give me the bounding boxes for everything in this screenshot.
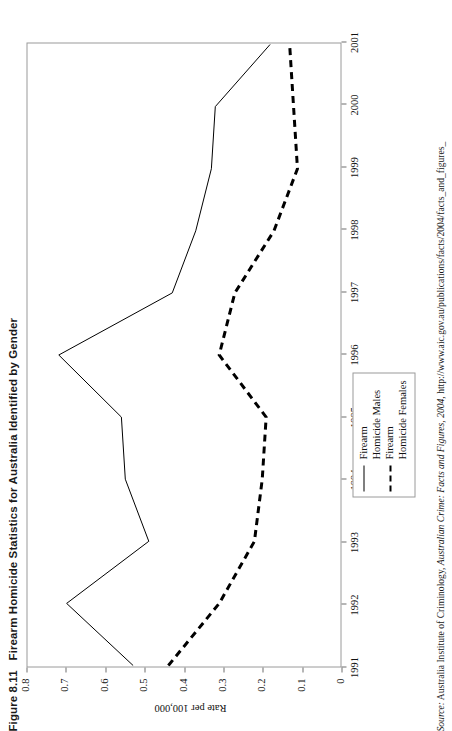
y-tick-label: 0.6	[98, 678, 109, 708]
legend-label-females-line1: Firearm	[383, 426, 396, 459]
chart-svg	[27, 43, 340, 666]
source-body: Australia Institute of Criminology,	[434, 565, 445, 700]
source-italic-title: Australian Crime: Facts and Figures, 200…	[434, 398, 445, 564]
x-tick-mark	[341, 166, 346, 167]
y-tick-mark	[302, 667, 303, 672]
x-tick-label: 1992	[348, 585, 359, 625]
x-tick-mark	[341, 229, 346, 230]
legend-entry-males-line1: Firearm	[357, 380, 370, 491]
y-tick-label: 0.7	[58, 678, 69, 708]
legend-entry-males-line2: Homicide Males	[370, 380, 383, 491]
series-line-males	[58, 44, 269, 665]
legend-label-males-line2: Homicide Males	[370, 389, 383, 459]
x-tick-label: 2000	[348, 85, 359, 125]
figure-source-note: Source: Australia Institute of Criminolo…	[434, 0, 445, 731]
legend-entry-females-line2: Homicide Females	[396, 380, 409, 491]
y-tick-label: 0.5	[137, 678, 148, 708]
legend-key-spacer-b	[402, 465, 403, 491]
x-tick-label: 1998	[348, 210, 359, 250]
legend-key-spacer-a	[376, 465, 377, 491]
legend-key-solid-line	[363, 465, 364, 491]
legend-label-males-line1: Firearm	[357, 426, 370, 459]
x-tick-label: 1996	[348, 335, 359, 375]
chart-plot-area	[26, 42, 341, 667]
x-tick-label: 1999	[348, 147, 359, 187]
figure-title-text: Firearm Homicide Statistics for Australi…	[6, 317, 18, 660]
series-line-females	[168, 44, 297, 665]
y-tick-mark	[262, 667, 263, 672]
y-tick-mark	[105, 667, 106, 672]
figure-rotated-container: Figure 8.11 Firearm Homicide Statistics …	[0, 0, 452, 731]
y-tick-mark	[184, 667, 185, 672]
y-tick-mark	[341, 667, 342, 672]
y-tick-label: 0	[334, 678, 345, 708]
x-tick-label: 1997	[348, 272, 359, 312]
y-tick-label: 0.8	[19, 678, 30, 708]
x-tick-label: 2001	[348, 22, 359, 62]
y-tick-mark	[223, 667, 224, 672]
y-tick-mark	[26, 667, 27, 672]
x-tick-mark	[341, 291, 346, 292]
legend-entry-females-line1: Firearm	[383, 380, 396, 491]
x-tick-label: 1993	[348, 522, 359, 562]
source-tail: , http://www.aic.gov.au/publications/fac…	[434, 141, 445, 398]
y-axis-label: Rate per 100,000	[153, 702, 225, 713]
figure-number: Figure 8.11	[6, 670, 18, 731]
y-tick-mark	[144, 667, 145, 672]
legend-key-dashed-line	[389, 465, 391, 491]
chart-legend: Firearm Homicide Males Firearm Homicide …	[352, 372, 415, 497]
y-tick-mark	[65, 667, 66, 672]
x-tick-mark	[341, 104, 346, 105]
x-tick-mark	[341, 666, 346, 667]
figure-title: Figure 8.11 Firearm Homicide Statistics …	[6, 31, 18, 731]
source-prefix: Source:	[434, 702, 445, 731]
legend-label-females-line2: Homicide Females	[396, 380, 409, 459]
x-tick-mark	[341, 41, 346, 42]
y-tick-label: 0.2	[255, 678, 266, 708]
x-tick-mark	[341, 541, 346, 542]
x-tick-label: 1991	[348, 647, 359, 687]
x-tick-mark	[341, 604, 346, 605]
x-tick-mark	[341, 354, 346, 355]
x-tick-mark	[341, 416, 346, 417]
y-tick-label: 0.1	[295, 678, 306, 708]
x-tick-mark	[341, 479, 346, 480]
